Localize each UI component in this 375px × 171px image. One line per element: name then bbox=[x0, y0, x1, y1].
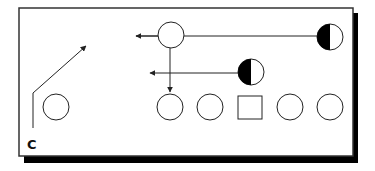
line-player-5-circle bbox=[317, 94, 343, 120]
line-player-4-circle bbox=[277, 94, 303, 120]
left-player-circle bbox=[43, 94, 69, 120]
top-player-circle bbox=[158, 22, 184, 48]
center-square bbox=[238, 96, 262, 119]
defender-2-half-circle bbox=[238, 59, 264, 85]
c-label: C bbox=[27, 137, 37, 152]
diagram-frame bbox=[19, 8, 353, 156]
line-player-2-circle bbox=[197, 94, 223, 120]
defender-1-half-circle bbox=[317, 24, 343, 50]
line-player-1-circle bbox=[157, 94, 183, 120]
play-diagram: C bbox=[0, 0, 375, 171]
